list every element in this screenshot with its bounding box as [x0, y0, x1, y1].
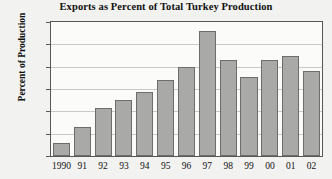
- bar: [53, 143, 70, 156]
- y-tick-mark: [46, 22, 50, 23]
- bar-slot: [303, 22, 320, 156]
- y-tick-mark: [46, 156, 50, 157]
- bar-slot: [53, 22, 70, 156]
- x-tick-label: 02: [292, 161, 332, 171]
- y-tick-mark: [46, 134, 50, 135]
- bar: [74, 127, 91, 156]
- bar-slot: [282, 22, 299, 156]
- bar-slot: [157, 22, 174, 156]
- bar: [95, 108, 112, 156]
- bar: [115, 100, 132, 156]
- y-tick-mark: [46, 44, 50, 45]
- y-tick-mark: [46, 89, 50, 90]
- bar-chart: Exports as Percent of Total Turkey Produ…: [0, 0, 332, 179]
- bar: [303, 71, 320, 156]
- bar-slot: [115, 22, 132, 156]
- bar-slot: [261, 22, 278, 156]
- bar-slot: [95, 22, 112, 156]
- bar: [240, 77, 257, 156]
- bar-series: [51, 22, 322, 156]
- bar: [261, 60, 278, 156]
- bar: [220, 60, 237, 156]
- bar-slot: [178, 22, 195, 156]
- bar-slot: [220, 22, 237, 156]
- y-tick-mark: [46, 111, 50, 112]
- bar-slot: [199, 22, 216, 156]
- bar-slot: [136, 22, 153, 156]
- bar-slot: [240, 22, 257, 156]
- bar: [199, 31, 216, 156]
- bar-slot: [74, 22, 91, 156]
- y-axis-title: Percent of Production: [17, 0, 27, 117]
- bar: [282, 56, 299, 157]
- y-tick-mark: [46, 67, 50, 68]
- chart-title: Exports as Percent of Total Turkey Produ…: [0, 1, 332, 12]
- bar: [178, 67, 195, 156]
- bar: [157, 80, 174, 156]
- bar: [136, 92, 153, 156]
